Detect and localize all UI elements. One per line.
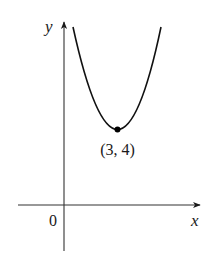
parabola-graph: y x 0 (3, 4) [0, 0, 211, 264]
parabola-curve [73, 27, 161, 130]
vertex-point [115, 127, 121, 133]
x-axis-label: x [190, 211, 199, 230]
y-axis-label: y [43, 17, 53, 36]
origin-label: 0 [49, 212, 57, 229]
vertex-label: (3, 4) [100, 141, 135, 159]
